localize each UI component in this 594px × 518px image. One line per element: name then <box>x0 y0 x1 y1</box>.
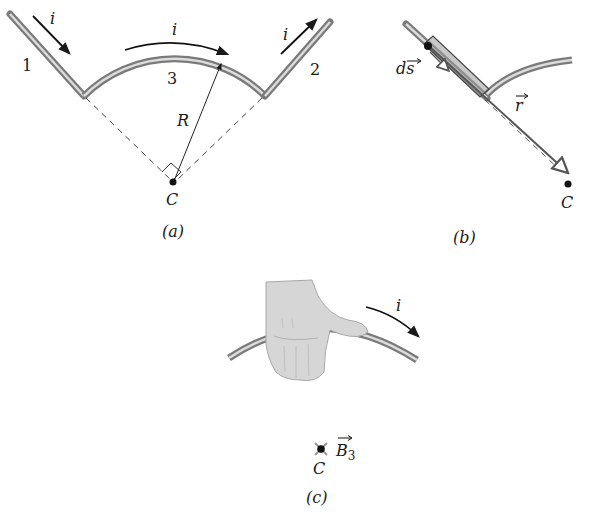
ds-label: ds <box>396 59 414 78</box>
caption-b: (b) <box>453 228 476 247</box>
center-label-a: C <box>166 190 178 209</box>
current-label-3: i <box>172 20 177 39</box>
caption-a: (a) <box>162 222 184 241</box>
current-arrow-c <box>366 307 418 336</box>
center-label-b: C <box>561 193 573 212</box>
current-label-c: i <box>396 296 401 315</box>
panel-b: ds r C (b) <box>396 24 573 247</box>
segment-label-1: 1 <box>22 56 32 75</box>
dashed-radius-left <box>86 98 172 181</box>
center-point-a <box>170 179 177 186</box>
current-label-2: i <box>283 25 288 44</box>
segment-label-2: 2 <box>310 60 320 79</box>
dashed-line-b <box>485 100 562 172</box>
ds-element <box>424 36 489 97</box>
center-label-c: C <box>313 459 325 478</box>
segment-label-3: 3 <box>167 69 177 88</box>
figure-canvas: i i i 1 2 3 R C (a) ds <box>0 0 594 518</box>
ds-point <box>424 42 432 50</box>
field-into-page-icon <box>315 443 327 455</box>
current-label-1: i <box>50 9 55 28</box>
center-point-b <box>565 181 572 188</box>
panel-a: i i i 1 2 3 R C (a) <box>10 9 330 241</box>
wire-segment-1 <box>10 14 84 96</box>
caption-c: (c) <box>306 488 327 507</box>
field-label: B3 <box>335 441 355 463</box>
wire-segment-2 <box>265 22 330 96</box>
current-arrow-3 <box>125 43 227 54</box>
wire-arc-b <box>487 60 572 94</box>
radius-label: R <box>176 111 189 130</box>
right-hand-icon <box>266 280 368 381</box>
panel-c: i B3 C (c) <box>229 280 418 507</box>
r-label: r <box>515 96 524 115</box>
